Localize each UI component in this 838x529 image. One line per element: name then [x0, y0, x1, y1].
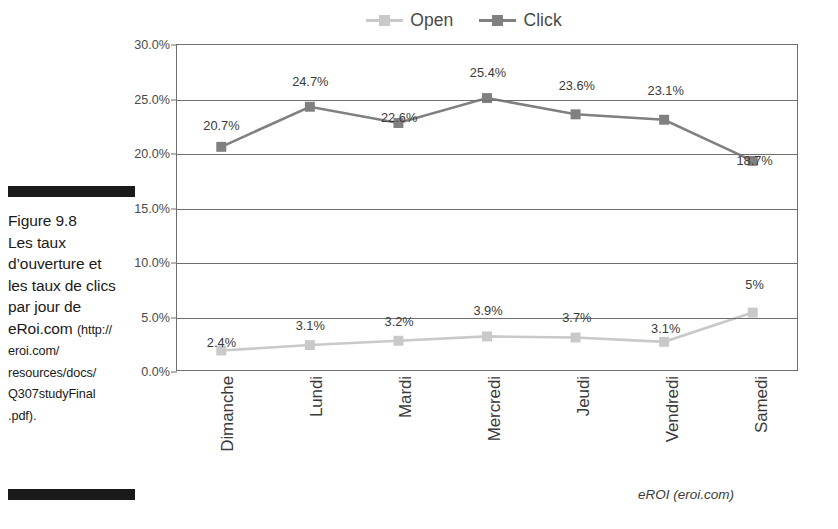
legend-item-open[interactable]: Open: [366, 10, 453, 31]
y-axis-tick-mark: [171, 99, 177, 100]
data-label: 3.2%: [385, 314, 414, 329]
gridline: [177, 209, 797, 210]
series-line-click: [221, 98, 752, 161]
data-label: 3.1%: [651, 321, 680, 336]
chart-container: OpenClick 30.0%25.0%20.0%15.0%10.0%5.0%0…: [130, 0, 838, 529]
legend-label: Open: [410, 10, 453, 31]
caption-rule-top: [8, 186, 135, 197]
data-label: 3.9%: [473, 303, 502, 318]
caption-eroi-domain: eRoi.com: [8, 320, 77, 337]
data-label: 18.7%: [736, 153, 772, 168]
caption-line: par jour de: [8, 296, 136, 318]
caption-url-part: eroi.com/: [8, 341, 136, 363]
caption-url-part: Q307studyFinal: [8, 384, 136, 406]
legend-line-icon: [479, 19, 492, 22]
data-label: 24.7%: [292, 74, 328, 89]
data-point-marker[interactable]: [748, 308, 758, 318]
data-label: 2.4%: [207, 335, 236, 350]
y-axis-tick-mark: [171, 317, 177, 318]
data-label: 20.7%: [203, 118, 239, 133]
caption-line: d’ouverture et: [8, 253, 136, 275]
legend-marker-icon: [379, 15, 390, 26]
caption-url-part: (http://: [77, 323, 112, 337]
chart-source-note: eROI (eroi.com): [638, 487, 734, 502]
series-lines: [177, 45, 797, 370]
legend-label: Click: [523, 10, 561, 31]
caption-url-part: resources/docs/: [8, 363, 136, 385]
data-label: 5%: [745, 277, 764, 292]
y-axis-tick-mark: [171, 263, 177, 264]
x-axis-label-mardi: Mardi: [396, 376, 416, 418]
y-axis-label: 20.0%: [134, 147, 170, 161]
x-axis-label-jeudi: Jeudi: [574, 376, 594, 416]
caption-line: les taux de clics: [8, 275, 136, 297]
y-axis-label: 10.0%: [134, 256, 170, 270]
x-axis-label-mercredi: Mercredi: [485, 376, 505, 441]
y-axis-tick-mark: [171, 208, 177, 209]
data-point-marker[interactable]: [571, 333, 581, 343]
data-point-marker[interactable]: [482, 331, 492, 341]
gridline: [177, 154, 797, 155]
legend-item-click[interactable]: Click: [479, 10, 561, 31]
legend-marker-icon: [492, 15, 503, 26]
data-point-marker[interactable]: [216, 142, 226, 152]
data-label: 22.6%: [381, 110, 417, 125]
y-axis-tick-mark: [171, 154, 177, 155]
caption-line: Figure 9.8: [8, 210, 136, 232]
y-axis-label: 30.0%: [134, 38, 170, 52]
legend-line-icon: [366, 19, 379, 22]
y-axis-label: 0.0%: [141, 365, 170, 379]
data-label: 23.1%: [648, 83, 684, 98]
figure-caption-text: Figure 9.8 Les taux d’ouverture et les t…: [8, 210, 136, 427]
data-point-marker[interactable]: [305, 340, 315, 350]
data-point-marker[interactable]: [482, 93, 492, 103]
data-point-marker[interactable]: [659, 337, 669, 347]
caption-rule-bottom: [8, 489, 135, 500]
data-label: 23.6%: [559, 78, 595, 93]
y-axis-label: 5.0%: [141, 311, 170, 325]
gridline: [177, 100, 797, 101]
caption-line-url-start: eRoi.com (http://: [8, 318, 136, 342]
legend-line-icon: [503, 19, 516, 22]
chart-legend: OpenClick: [130, 6, 798, 34]
legend-line-icon: [390, 19, 403, 22]
gridline: [177, 263, 797, 264]
data-point-marker[interactable]: [393, 336, 403, 346]
y-axis-label: 15.0%: [134, 202, 170, 216]
data-label: 3.1%: [296, 318, 325, 333]
plot-area: 30.0%25.0%20.0%15.0%10.0%5.0%0.0%2.4%3.1…: [176, 44, 798, 371]
x-axis-label-vendredi: Vendredi: [663, 376, 683, 442]
data-label: 3.7%: [562, 310, 591, 325]
y-axis-tick-mark: [171, 372, 177, 373]
x-axis-label-lundi: Lundi: [307, 376, 327, 417]
y-axis-tick-mark: [171, 45, 177, 46]
data-point-marker[interactable]: [659, 115, 669, 125]
caption-line: Les taux: [8, 232, 136, 254]
data-point-marker[interactable]: [571, 109, 581, 119]
data-label: 25.4%: [470, 65, 506, 80]
x-axis-label-dimanche: Dimanche: [218, 376, 238, 452]
data-point-marker[interactable]: [305, 102, 315, 112]
figure-caption-block: Figure 9.8 Les taux d’ouverture et les t…: [8, 186, 136, 427]
y-axis-label: 25.0%: [134, 93, 170, 107]
x-axis-label-samedi: Samedi: [752, 376, 772, 433]
caption-url-part: .pdf).: [8, 406, 136, 428]
